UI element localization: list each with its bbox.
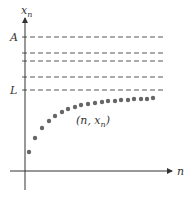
point-label: (n, xn) [76, 114, 110, 129]
level-label-a: A [9, 31, 18, 44]
y-axis-label: xn [21, 4, 32, 19]
sequence-diagram: xn n A L [0, 0, 193, 198]
x-axis-label: n [177, 165, 184, 178]
level-label-l: L [9, 84, 17, 97]
dashed-level-lines [22, 37, 164, 90]
